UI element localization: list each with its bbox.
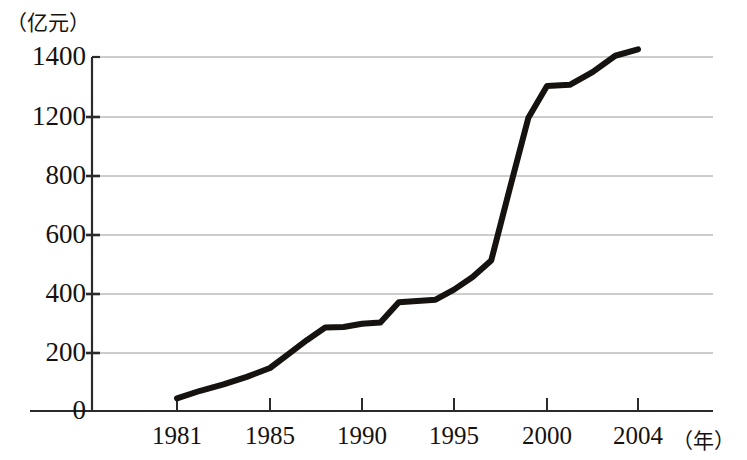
y-tick-label: 1400 <box>0 43 86 70</box>
axis-group <box>30 57 713 411</box>
x-axis-unit-label: （年） <box>672 424 735 454</box>
y-tick-label: 600 <box>0 221 86 248</box>
x-tick-label: 1981 <box>152 422 202 450</box>
line-chart: （亿元） 1400 1200 <box>0 0 747 460</box>
data-series-line <box>177 49 638 398</box>
chart-canvas <box>0 0 747 460</box>
x-tick-label: 2004 <box>613 422 663 450</box>
gridline-group <box>100 57 713 353</box>
y-tick-label: 800 <box>0 162 86 189</box>
y-tick-label: 1200 <box>0 103 86 130</box>
x-tick-label: 1985 <box>245 422 295 450</box>
x-tick-label: 2000 <box>522 422 572 450</box>
x-tick-label: 1995 <box>429 422 479 450</box>
y-tick-label: 400 <box>0 280 86 307</box>
x-tick-label: 1990 <box>337 422 387 450</box>
y-tick-label: 0 <box>0 397 86 424</box>
y-tick-label: 200 <box>0 339 86 366</box>
